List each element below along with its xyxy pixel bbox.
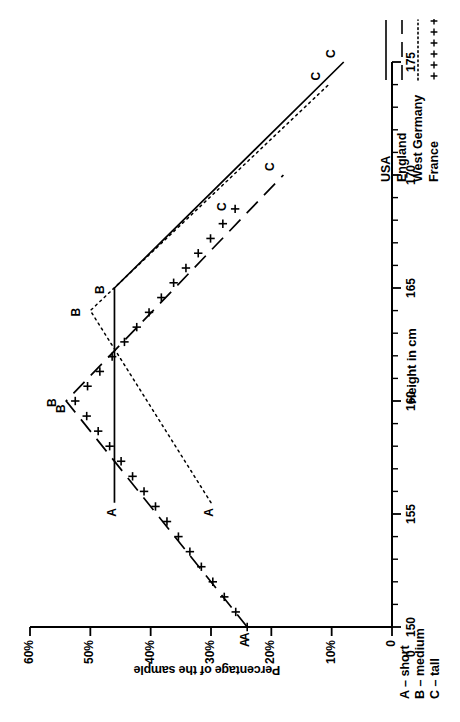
category-key-item-a: A – short bbox=[398, 628, 413, 699]
point-label-c: C bbox=[324, 49, 338, 58]
point-label-c: C bbox=[215, 202, 229, 211]
marker-cross-icon bbox=[105, 442, 113, 450]
marker-cross-icon bbox=[219, 219, 227, 227]
marker-cross-icon bbox=[220, 593, 228, 601]
legend-swatch bbox=[394, 19, 410, 87]
legend-label: USA bbox=[378, 87, 394, 182]
chart-figure: 150155160165170175 010%20%30%40%50%60%0 … bbox=[0, 0, 460, 722]
legend-row: West Germany bbox=[410, 19, 426, 182]
y-tick-label: 50% bbox=[82, 640, 96, 685]
y-tick-label: 10% bbox=[324, 640, 338, 685]
x-tick-label: 155 bbox=[404, 494, 418, 534]
point-label-a: A bbox=[238, 638, 252, 647]
point-label-c: C bbox=[309, 72, 323, 81]
point-label-b: B bbox=[54, 404, 68, 413]
marker-cross-icon bbox=[174, 532, 182, 540]
legend-row: France bbox=[426, 19, 442, 182]
series-line-usa bbox=[114, 62, 343, 503]
marker-cross-icon bbox=[145, 308, 153, 316]
point-label-b: B bbox=[93, 285, 107, 294]
category-key-item-c: C – tall bbox=[428, 628, 443, 699]
y-tick-label: 60% bbox=[22, 640, 36, 685]
series-line-england bbox=[66, 175, 283, 627]
marker-cross-icon bbox=[182, 264, 190, 272]
y-tick-label: 0 bbox=[384, 640, 398, 685]
point-label-c: C bbox=[263, 162, 277, 171]
marker-cross-icon bbox=[169, 279, 177, 287]
marker-cross-icon bbox=[83, 412, 91, 420]
legend-label: West Germany bbox=[410, 87, 426, 182]
category-key-item-b: B – medium bbox=[413, 628, 428, 699]
marker-cross-icon bbox=[186, 547, 194, 555]
marker-cross-icon bbox=[83, 382, 91, 390]
marker-cross-icon bbox=[232, 608, 240, 616]
legend-label: France bbox=[426, 87, 442, 182]
axes-layer bbox=[30, 62, 401, 636]
marker-cross-icon bbox=[209, 578, 217, 586]
legend-row: USA bbox=[378, 19, 394, 182]
category-key: A – short B – medium C – tall bbox=[398, 628, 443, 699]
legend-label: England bbox=[394, 87, 410, 182]
series-line-west-germany bbox=[90, 85, 328, 503]
legend-swatch bbox=[378, 19, 394, 87]
y-axis-title: Percentage of the sample bbox=[97, 663, 317, 677]
marker-cross-icon bbox=[117, 457, 125, 465]
marker-cross-icon bbox=[206, 234, 214, 242]
marker-cross-icon bbox=[197, 563, 205, 571]
x-tick-label: 165 bbox=[404, 268, 418, 308]
series-legend-table: USAEnglandWest GermanyFrance bbox=[378, 19, 442, 182]
series-layer bbox=[66, 62, 344, 631]
legend-row: England bbox=[394, 19, 410, 182]
marker-cross-icon bbox=[157, 293, 165, 301]
marker-cross-icon bbox=[231, 205, 239, 213]
legend-swatch bbox=[410, 19, 426, 87]
rotated-figure-wrapper: 150155160165170175 010%20%30%40%50%60%0 … bbox=[0, 0, 460, 722]
legend-swatch bbox=[426, 19, 442, 87]
marker-cross-icon bbox=[71, 397, 79, 405]
marker-cross-icon bbox=[120, 338, 128, 346]
marker-cross-icon bbox=[194, 249, 202, 257]
point-label-a: A bbox=[202, 508, 216, 517]
point-label-a: A bbox=[105, 508, 119, 517]
x-axis-title: Height in cm bbox=[404, 328, 419, 404]
point-label-b: B bbox=[69, 308, 83, 317]
series-legend: USAEnglandWest GermanyFrance bbox=[378, 19, 442, 182]
marker-cross-icon bbox=[94, 427, 102, 435]
marker-cross-icon bbox=[140, 487, 148, 495]
